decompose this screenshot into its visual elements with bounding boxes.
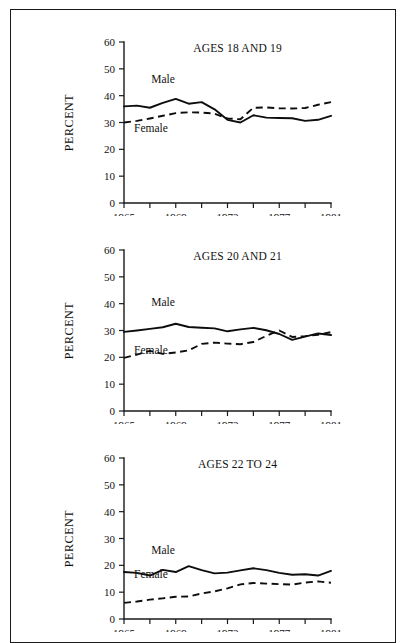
y-tick-label: 60 <box>104 244 116 256</box>
chart-title: AGES 20 AND 21 <box>193 250 282 262</box>
y-tick-label: 50 <box>104 63 116 75</box>
y-tick-label: 20 <box>104 143 116 155</box>
x-tick-label: 1965 <box>113 211 136 216</box>
y-axis-label: PERCENT <box>62 94 76 152</box>
axis-lines <box>124 458 331 619</box>
chart-title: AGES 18 AND 19 <box>193 42 282 54</box>
chart-svg: AGES 22 TO 24PERCENT01020304050601965196… <box>11 426 397 632</box>
chart-title: AGES 22 TO 24 <box>198 458 277 470</box>
x-tick-label: 1969 <box>165 627 188 632</box>
y-tick-label: 10 <box>104 170 116 182</box>
series-line-female <box>124 581 331 602</box>
chart-svg: AGES 18 AND 19PERCENT0102030405060196519… <box>11 10 397 216</box>
series-label-male: Male <box>151 544 175 556</box>
y-tick-label: 20 <box>104 559 116 571</box>
series-label-male: Male <box>151 73 175 85</box>
y-tick-label: 50 <box>104 271 116 283</box>
figure-border: AGES 18 AND 19PERCENT0102030405060196519… <box>10 9 396 643</box>
chart-panel-ages-18-19: AGES 18 AND 19PERCENT0102030405060196519… <box>11 10 397 216</box>
x-tick-label: 1973 <box>217 627 240 632</box>
y-tick-label: 30 <box>104 325 116 337</box>
y-tick-label: 50 <box>104 479 116 491</box>
x-tick-label: 1977 <box>268 211 291 216</box>
y-tick-label: 20 <box>104 351 116 363</box>
chart-svg: AGES 20 AND 21PERCENT0102030405060196519… <box>11 218 397 424</box>
y-tick-label: 40 <box>104 506 116 518</box>
series-label-female: Female <box>134 344 168 356</box>
x-tick-label: 1977 <box>268 627 291 632</box>
chart-panel-ages-20-21: AGES 20 AND 21PERCENT0102030405060196519… <box>11 218 397 424</box>
series-line-male <box>124 324 331 340</box>
series-label-male: Male <box>151 296 175 308</box>
series-label-female: Female <box>134 568 168 580</box>
y-tick-label: 60 <box>104 36 116 48</box>
x-tick-label: 1965 <box>113 627 136 632</box>
x-tick-label: 1981 <box>320 419 342 424</box>
y-tick-label: 0 <box>110 197 116 209</box>
y-tick-label: 40 <box>104 298 116 310</box>
x-tick-label: 1981 <box>320 211 342 216</box>
x-tick-label: 1965 <box>113 419 136 424</box>
x-tick-label: 1969 <box>165 419 188 424</box>
y-tick-label: 30 <box>104 117 116 129</box>
y-tick-label: 10 <box>104 586 116 598</box>
y-tick-label: 40 <box>104 90 116 102</box>
y-tick-label: 10 <box>104 378 116 390</box>
y-tick-label: 30 <box>104 533 116 545</box>
chart-panel-ages-22-24: AGES 22 TO 24PERCENT01020304050601965196… <box>11 426 397 632</box>
x-tick-label: 1973 <box>217 419 240 424</box>
x-tick-label: 1977 <box>268 419 291 424</box>
y-axis-label: PERCENT <box>62 302 76 360</box>
y-tick-label: 0 <box>110 613 116 625</box>
y-tick-label: 0 <box>110 405 116 417</box>
series-label-female: Female <box>134 122 168 134</box>
x-tick-label: 1969 <box>165 211 188 216</box>
y-axis-label: PERCENT <box>62 510 76 568</box>
x-tick-label: 1973 <box>217 211 240 216</box>
x-tick-label: 1981 <box>320 627 342 632</box>
y-tick-label: 60 <box>104 452 116 464</box>
